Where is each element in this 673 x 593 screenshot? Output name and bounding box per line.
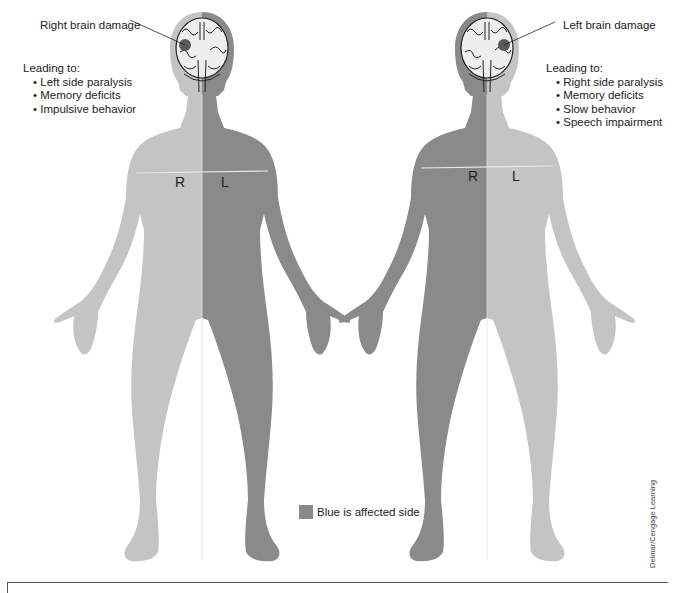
leading-to-heading: Leading to:: [546, 62, 663, 76]
effect-item: Memory deficits: [556, 89, 663, 103]
right-figure-right-half: [339, 95, 487, 561]
legend: Blue is affected side: [299, 505, 420, 519]
right-figure-l-label: L: [512, 168, 520, 184]
leading-to-heading: Leading to:: [23, 62, 136, 76]
left-figure-leading-to-block: Leading to: Left side paralysis Memory d…: [23, 62, 136, 116]
right-brain-damage-label: Right brain damage: [40, 19, 140, 33]
effect-item: Right side paralysis: [556, 76, 663, 90]
frame-border: [7, 582, 668, 593]
left-figure-r-label: R: [175, 174, 185, 190]
legend-swatch-icon: [299, 505, 313, 519]
right-figure-leading-to-block: Leading to: Right side paralysis Memory …: [546, 62, 663, 130]
legend-label: Blue is affected side: [317, 506, 420, 518]
effect-item: Left side paralysis: [33, 76, 136, 90]
right-figure-left-half: [487, 95, 635, 561]
effect-item: Slow behavior: [556, 103, 663, 117]
right-figure-effects-list: Right side paralysis Memory deficits Slo…: [546, 76, 663, 130]
left-figure-effects-list: Left side paralysis Memory deficits Impu…: [23, 76, 136, 117]
left-figure-right-half: [54, 95, 202, 561]
left-figure-left-half: [202, 95, 350, 561]
left-brain-damage-label: Left brain damage: [563, 19, 656, 33]
effect-item: Memory deficits: [33, 89, 136, 103]
left-figure-l-label: L: [221, 174, 229, 190]
effect-item: Speech impairment: [556, 116, 663, 130]
right-figure-r-label: R: [468, 168, 478, 184]
credit-text: Delmar/Cengage Learning: [648, 480, 657, 568]
effect-item: Impulsive behavior: [33, 103, 136, 117]
